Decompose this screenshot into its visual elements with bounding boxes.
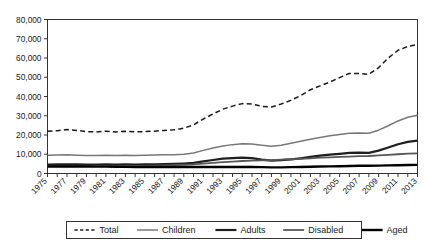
y-tick-label: 30,000 <box>16 111 42 121</box>
x-tick-label: 2005 <box>321 176 341 196</box>
x-tick-label: 1983 <box>107 176 127 196</box>
y-tick-label: 80,000 <box>16 15 42 25</box>
legend-label-total[interactable]: Total <box>100 225 119 235</box>
x-tick-label: 1997 <box>243 176 263 196</box>
legend: TotalChildrenAdultsDisabledAged <box>67 222 408 239</box>
x-tick-label: 1989 <box>165 176 185 196</box>
y-tick-label: 40,000 <box>16 92 42 102</box>
x-tick-label: 1979 <box>68 176 88 196</box>
x-tick-label: 1985 <box>126 176 146 196</box>
x-tick-label: 1991 <box>185 176 205 196</box>
plot-border <box>48 20 418 174</box>
series-line-total <box>48 45 418 132</box>
x-axis: 1975197719791981198319851987198919911993… <box>29 174 419 196</box>
x-tick-label: 1987 <box>146 176 166 196</box>
y-axis: 80,00070,00060,00050,00040,00030,00020,0… <box>16 15 47 179</box>
x-tick-label: 1995 <box>224 176 244 196</box>
legend-label-children[interactable]: Children <box>162 225 196 235</box>
x-tick-label: 2003 <box>301 176 321 196</box>
y-tick-label: 10,000 <box>16 149 42 159</box>
y-tick-label: 50,000 <box>16 72 42 82</box>
y-tick-label: 70,000 <box>16 34 42 44</box>
x-tick-label: 2007 <box>340 176 360 196</box>
y-tick-label: 20,000 <box>16 130 42 140</box>
series-line-children <box>48 115 418 155</box>
line-chart: 80,00070,00060,00050,00040,00030,00020,0… <box>0 0 427 247</box>
x-tick-label: 2001 <box>282 176 302 196</box>
legend-label-aged[interactable]: Aged <box>387 225 408 235</box>
x-tick-label: 1975 <box>29 176 49 196</box>
legend-label-disabled[interactable]: Disabled <box>308 225 343 235</box>
x-tick-label: 2011 <box>380 176 400 196</box>
x-tick-label: 2009 <box>360 176 380 196</box>
plot-frame <box>48 20 418 174</box>
legend-label-adults[interactable]: Adults <box>240 225 266 235</box>
x-tick-label: 1981 <box>87 176 107 196</box>
x-tick-label: 2013 <box>399 176 419 196</box>
series-group <box>48 45 418 168</box>
y-tick-label: 60,000 <box>16 53 42 63</box>
x-tick-label: 1999 <box>262 176 282 196</box>
x-tick-label: 1993 <box>204 176 224 196</box>
x-tick-label: 1977 <box>48 176 68 196</box>
chart-canvas: 80,00070,00060,00050,00040,00030,00020,0… <box>0 0 427 247</box>
